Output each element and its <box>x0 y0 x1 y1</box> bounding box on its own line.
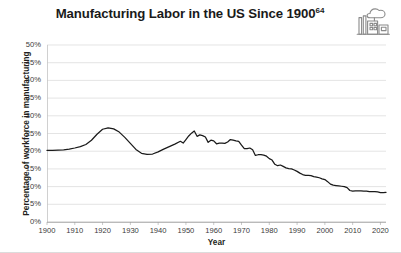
plot-area <box>0 0 401 253</box>
y-axis-title: Percentage of workforce in manufacturing <box>22 39 31 229</box>
x-tick-label: 2020 <box>360 227 400 235</box>
x-axis-title: Year <box>47 238 386 247</box>
chart-figure: Manufacturing Labor in the US Since 1900… <box>0 0 401 253</box>
data-series-line <box>47 128 386 193</box>
